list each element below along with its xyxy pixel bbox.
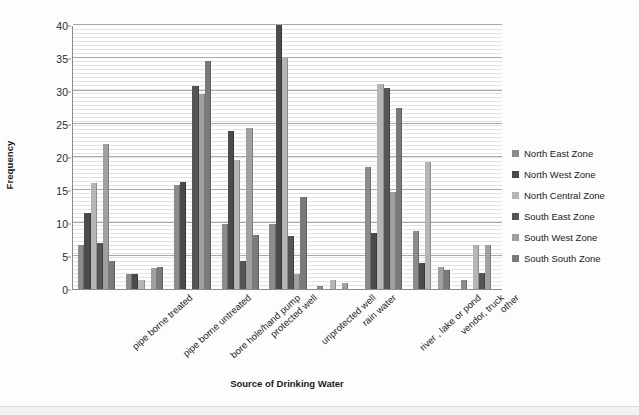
legend-item[interactable]: South South Zone [512,248,637,269]
bar[interactable] [396,108,402,290]
plot-area [72,26,502,290]
legend-swatch-icon [512,234,519,241]
bar[interactable] [330,280,336,289]
legend-item[interactable]: North Central Zone [512,185,637,206]
y-tick-label: 30 [40,86,68,98]
legend-label: South East Zone [524,211,595,222]
bar[interactable] [461,280,467,289]
y-tick-label: 10 [40,218,68,230]
y-tick-mark [66,158,71,159]
y-tick-mark [66,224,71,225]
y-tick-mark [66,125,71,126]
x-axis-tick-labels: pipe borne treatedpipe borne untreatedbo… [0,292,520,362]
x-axis-title: Source of Drinking Water [72,378,502,389]
bar[interactable] [205,61,211,289]
bar-group [365,26,402,289]
legend-item[interactable]: South East Zone [512,206,637,227]
y-tick-label: 5 [40,251,68,263]
bar-group [222,26,259,289]
bar-group [174,26,211,289]
y-tick-mark [66,92,71,93]
y-tick-mark [66,257,71,258]
bar[interactable] [253,235,259,289]
legend-swatch-icon [512,150,519,157]
bar[interactable] [425,162,431,289]
bar-chart-figure: Frequency 0510152025303540 pipe borne tr… [0,0,639,415]
gridline [73,24,502,25]
bar[interactable] [180,182,186,289]
legend-label: North West Zone [524,169,596,180]
bar-group [317,26,354,289]
y-tick-label: 25 [40,119,68,131]
bar[interactable] [109,261,115,289]
bar[interactable] [300,197,306,289]
y-tick-mark [66,191,71,192]
y-axis-tick-labels: 0510152025303540 [34,26,68,290]
legend-swatch-icon [512,171,519,178]
legend-swatch-icon [512,192,519,199]
legend-label: North Central Zone [524,190,605,201]
legend-label: South South Zone [524,253,601,264]
y-tick-label: 35 [40,53,68,65]
y-tick-mark [66,290,71,291]
legend-item[interactable]: North West Zone [512,164,637,185]
y-tick-mark [66,26,71,27]
bar[interactable] [342,283,348,289]
page-bottom-edge [0,406,639,415]
bar[interactable] [317,286,323,289]
bar-group [413,26,450,289]
chart-legend: North East ZoneNorth West ZoneNorth Cent… [512,143,637,269]
bar-group [269,26,306,289]
legend-swatch-icon [512,255,519,262]
y-tick-label: 20 [40,152,68,164]
bar[interactable] [485,245,491,289]
bar-group [461,26,498,289]
legend-label: North East Zone [524,148,593,159]
bar-group [78,26,115,289]
y-tick-label: 40 [40,20,68,32]
legend-item[interactable]: North East Zone [512,143,637,164]
y-tick-label: 15 [40,185,68,197]
legend-label: South West Zone [524,232,597,243]
legend-item[interactable]: South West Zone [512,227,637,248]
y-axis-title: Frequency [4,120,15,210]
x-tick-label: pipe borne treated [130,292,195,352]
legend-swatch-icon [512,213,519,220]
y-tick-mark [66,59,71,60]
bar-group [126,26,163,289]
bar[interactable] [444,270,450,289]
bar[interactable] [138,280,144,289]
bar[interactable] [157,267,163,289]
